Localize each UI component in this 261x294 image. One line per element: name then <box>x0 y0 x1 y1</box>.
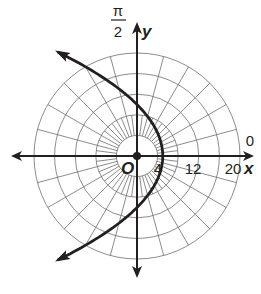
grid-radial-line <box>152 171 210 229</box>
axes <box>11 22 254 278</box>
grid-radial-minor-line <box>132 176 135 196</box>
grid-radial-line <box>38 161 118 182</box>
grid-radial-line <box>64 171 122 229</box>
tick-label-20: 20 <box>225 160 242 177</box>
tick-label-4: 4 <box>154 160 162 177</box>
grid-radial-minor-line <box>157 151 177 154</box>
pi-label: π <box>113 2 123 19</box>
grid-radial-line <box>155 105 226 146</box>
grid-radial-minor-line <box>96 159 116 162</box>
grid-radial-minor-line <box>96 151 116 154</box>
two-label: 2 <box>114 23 122 40</box>
grid-radial-line <box>38 129 118 150</box>
y-axis-label: y <box>141 22 153 41</box>
grid-radial-line <box>64 83 122 141</box>
origin-label: O <box>121 159 134 178</box>
grid-radial-line <box>48 166 119 207</box>
tick-label-12: 12 <box>185 160 202 177</box>
polar-axis-zero-label: 0 <box>246 132 254 149</box>
grid-radial-line <box>152 83 210 141</box>
grid-radial-minor-line <box>140 176 143 196</box>
grid-radial-line <box>48 105 119 146</box>
grid-radial-line <box>86 174 127 245</box>
grid-radial-line <box>157 129 237 150</box>
grid-radial-minor-line <box>140 115 143 135</box>
x-axis-label: x <box>243 159 255 178</box>
grid-radial-minor-line <box>132 115 135 135</box>
polar-graph: π 2 y 0 O 4 12 20 x <box>0 0 261 294</box>
grid-radial-line <box>86 67 127 138</box>
